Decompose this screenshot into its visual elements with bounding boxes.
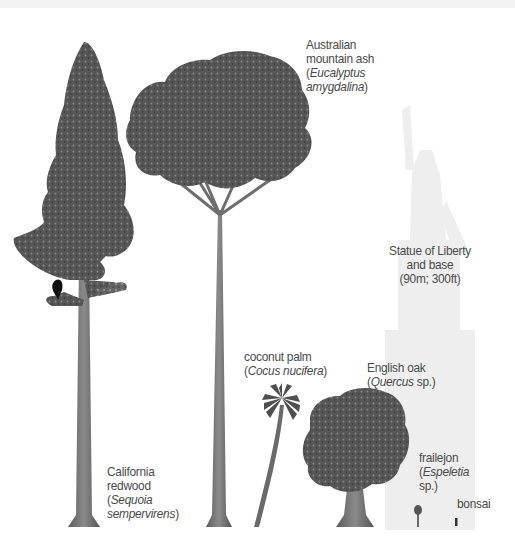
common-name-line: coconut palm [244,350,327,364]
label-coconut-palm: coconut palm (Cocus nucifera) [244,350,327,378]
common-name-line: frailejon [419,451,469,465]
bonsai-plant [455,518,458,526]
australian-mountain-ash-tree [126,51,311,527]
coconut-palm-tree [254,383,300,527]
latin-name-line: (Sequoia [107,493,179,507]
common-name-line: mountain ash [306,52,374,66]
label-california-redwood: California redwood (Sequoia sempervirens… [107,465,179,521]
latin-suffix-line: sp.) [419,479,469,493]
california-redwood-tree [14,42,134,527]
label-frailejon: frailejon (Espeletia sp.) [419,451,469,493]
common-name-line: English oak [367,361,436,375]
latin-name-line: (Quercus sp.) [367,375,436,389]
common-name-line: Australian [306,38,374,52]
label-australian-mountain-ash: Australian mountain ash (Eucalyptus amyg… [306,38,374,94]
statue-line: and base [377,258,483,272]
common-name-line: redwood [107,479,179,493]
latin-name-line: (Eucalyptus [306,66,374,80]
latin-name-line: (Espeletia [419,465,469,479]
statue-line: Statue of Liberty [377,244,483,258]
label-bonsai: bonsai [457,497,490,511]
latin-name-line: amygdalina) [306,80,374,94]
latin-name-line: (Cocus nucifera) [244,364,327,378]
statue-line: (90m; 300ft) [377,272,483,286]
common-name-line: California [107,465,179,479]
latin-name-line: sempervirens) [107,507,179,521]
common-name-line: bonsai [457,497,490,511]
label-statue-of-liberty: Statue of Liberty and base (90m; 300ft) [377,244,483,286]
label-english-oak: English oak (Quercus sp.) [367,361,436,389]
